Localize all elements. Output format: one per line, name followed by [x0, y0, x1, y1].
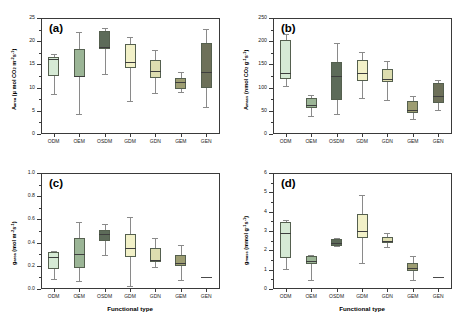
whisker-cap-upper-d-5 — [410, 256, 416, 257]
figure-canvas: 0510152025Aarea (µ mol CO2 m-2s-1)(a)ODM… — [0, 0, 464, 314]
whisker-cap-lower-d-0 — [283, 269, 289, 270]
ytick-minor-d-0 — [271, 279, 273, 280]
xtick-label-d-6: GEN — [433, 294, 444, 299]
whisker-cap-lower-d-1 — [308, 280, 314, 281]
whisker-lower-d-5 — [413, 271, 414, 280]
whisker-upper-d-3 — [362, 195, 363, 214]
x-axis-label-d: Functional type — [339, 305, 385, 312]
ytick-d-3 — [269, 231, 273, 232]
median-line-d-4 — [382, 241, 393, 242]
median-line-d-2 — [331, 243, 342, 244]
whisker-cap-upper-d-4 — [384, 233, 390, 234]
whisker-cap-lower-d-4 — [384, 247, 390, 248]
box-flat-d-6 — [433, 277, 444, 278]
ytick-label-d-6: 6 — [247, 170, 267, 175]
median-line-d-3 — [357, 231, 368, 232]
panel-label-d: (d) — [281, 177, 296, 189]
ytick-d-2 — [269, 250, 273, 251]
whisker-cap-lower-d-3 — [359, 263, 365, 264]
xtick-label-d-3: GDM — [356, 294, 368, 299]
xtick-d-2 — [337, 289, 338, 292]
median-line-d-5 — [407, 268, 418, 269]
xtick-label-d-1: OEM — [305, 294, 316, 299]
xtick-label-d-5: GEM — [407, 294, 418, 299]
xtick-label-d-0: ODM — [280, 294, 292, 299]
xtick-label-d-2: OSDM — [329, 294, 344, 299]
ytick-minor-d-2 — [271, 241, 273, 242]
ytick-d-4 — [269, 212, 273, 213]
xtick-d-3 — [362, 289, 363, 292]
ytick-d-0 — [269, 289, 273, 290]
xtick-d-0 — [286, 289, 287, 292]
plot-frame-top-d — [273, 173, 451, 174]
whisker-cap-lower-d-5 — [410, 280, 416, 281]
xtick-d-1 — [311, 289, 312, 292]
xtick-d-4 — [387, 289, 388, 292]
plot-frame-right-d — [451, 173, 452, 289]
whisker-lower-d-3 — [362, 238, 363, 263]
box-body-d-3 — [357, 214, 368, 238]
xtick-d-6 — [438, 289, 439, 292]
panel-d: 0123456gmass (mmol g-1s-1)(d)ODMOEMOSDMG… — [0, 0, 464, 314]
whisker-cap-lower-d-2 — [334, 246, 340, 247]
xtick-d-5 — [413, 289, 414, 292]
ytick-label-d-4: 4 — [247, 209, 267, 214]
box-body-d-0 — [280, 222, 291, 257]
median-line-d-1 — [306, 261, 317, 262]
whisker-lower-d-0 — [286, 258, 287, 269]
ytick-label-d-5: 5 — [247, 190, 267, 195]
ytick-d-6 — [269, 173, 273, 174]
xtick-label-d-4: GDN — [382, 294, 393, 299]
ytick-minor-d-3 — [271, 221, 273, 222]
y-axis-label-d: gmass (mmol g-1s-1) — [242, 216, 250, 265]
ytick-label-d-0: 0 — [247, 286, 267, 291]
ytick-label-d-1: 1 — [247, 267, 267, 272]
ytick-d-5 — [269, 192, 273, 193]
ytick-minor-d-5 — [271, 183, 273, 184]
ytick-minor-d-4 — [271, 202, 273, 203]
whisker-upper-d-5 — [413, 256, 414, 263]
whisker-lower-d-1 — [311, 264, 312, 279]
median-line-d-0 — [280, 233, 291, 234]
ytick-minor-d-1 — [271, 260, 273, 261]
ytick-d-1 — [269, 270, 273, 271]
whisker-cap-upper-d-3 — [359, 195, 365, 196]
whisker-cap-upper-d-0 — [283, 220, 289, 221]
